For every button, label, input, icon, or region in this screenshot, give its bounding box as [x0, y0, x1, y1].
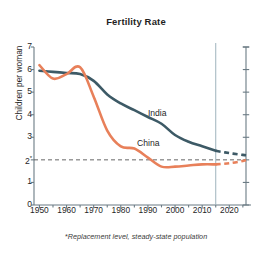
series-line-india	[39, 71, 215, 151]
series-label-india: India	[148, 108, 167, 118]
series-label-china: China	[137, 138, 159, 148]
x-axis-tick-label: 1970	[79, 205, 109, 215]
series-line-china	[39, 65, 215, 167]
series-projection-india	[216, 151, 249, 156]
x-axis-tick-label: 1960	[52, 205, 82, 215]
plot-canvas	[0, 0, 272, 255]
x-axis-tick-label: 2000	[160, 205, 190, 215]
chart-figure: Fertility Rate Children per woman 012*34…	[0, 0, 272, 255]
x-axis-tick-label: 1980	[106, 205, 136, 215]
x-axis-tick-label: 1990	[133, 205, 163, 215]
x-axis-tick-label: 2020	[214, 205, 244, 215]
chart-footnote: *Replacement level, steady-state populat…	[0, 232, 272, 241]
series-projection-china	[216, 160, 249, 165]
x-axis-tick-label: 1950	[24, 205, 54, 215]
x-axis-tick-label: 2010	[187, 205, 217, 215]
